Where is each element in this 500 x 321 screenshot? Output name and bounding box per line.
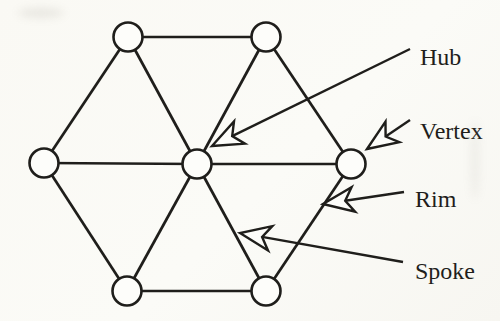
vertex-node-top-left <box>114 23 143 52</box>
callout-leader-rim <box>345 192 404 201</box>
vertex-node-top-right <box>252 23 281 52</box>
rim-edge-bottom_left-left <box>44 163 127 291</box>
callout-leader-vertex <box>386 120 410 136</box>
callout-leader-spoke <box>262 237 403 262</box>
spoke-edge-hub-left <box>44 163 197 164</box>
vertex-node-bottom-left <box>113 277 142 306</box>
rim-edge-right-bottom_right <box>266 164 351 291</box>
vertex-node-right <box>337 150 366 179</box>
callout-label-spoke: Spoke <box>415 258 475 284</box>
spoke-edge-hub-bottom_left <box>127 164 197 291</box>
wheel-graph-figure: HubVertexRimSpoke <box>0 0 500 321</box>
rim-edge-left-top_left <box>44 37 128 163</box>
callout-label-vertex: Vertex <box>420 118 483 144</box>
vertex-node-left <box>30 149 59 178</box>
rim-edge-top_right-right <box>266 37 351 164</box>
callout-arrowhead-vertex-icon <box>367 122 399 149</box>
spoke-edge-hub-top_left <box>128 37 197 164</box>
callout-label-hub: Hub <box>420 44 461 70</box>
hub-node <box>183 150 212 179</box>
vertex-node-bottom-right <box>252 277 281 306</box>
spoke-edge-hub-bottom_right <box>197 164 266 291</box>
callout-label-rim: Rim <box>415 186 457 212</box>
wheel-graph-svg: HubVertexRimSpoke <box>0 0 500 321</box>
